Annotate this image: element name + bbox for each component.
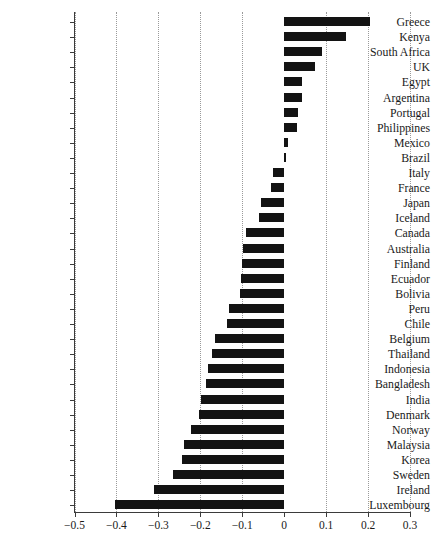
chart-row: France <box>0 180 434 196</box>
chart-row: Portugal <box>0 105 434 121</box>
x-tick-mark <box>326 512 327 517</box>
x-tick-mark <box>368 512 369 517</box>
x-tick-label: −0.5 <box>55 519 95 532</box>
bar-portugal <box>284 108 298 117</box>
bar-peru <box>229 304 284 313</box>
x-tick-label: 0.3 <box>390 519 430 532</box>
chart-row: Norway <box>0 422 434 438</box>
chart-row: Japan <box>0 195 434 211</box>
category-label-india: India <box>346 392 434 408</box>
x-tick-mark <box>284 512 285 517</box>
y-tick-mark <box>70 67 75 68</box>
chart-row: Bangladesh <box>0 376 434 392</box>
bar-korea <box>182 455 284 464</box>
category-label-denmark: Denmark <box>346 407 434 423</box>
y-tick-mark <box>70 233 75 234</box>
y-tick-mark <box>70 384 75 385</box>
y-tick-mark <box>70 309 75 310</box>
category-label-iceland: Iceland <box>346 210 434 226</box>
chart-row: Thailand <box>0 346 434 362</box>
category-label-mexico: Mexico <box>346 135 434 151</box>
y-tick-mark <box>70 445 75 446</box>
y-tick-mark <box>70 490 75 491</box>
bar-uk <box>284 62 315 71</box>
plot-area: GreeceKenyaSouth AfricaUKEgyptArgentinaP… <box>0 0 434 544</box>
category-label-south-africa: South Africa <box>346 44 434 60</box>
category-label-korea: Korea <box>346 452 434 468</box>
category-label-portugal: Portugal <box>346 105 434 121</box>
bar-thailand <box>212 349 284 358</box>
y-tick-mark <box>70 113 75 114</box>
category-label-belgium: Belgium <box>346 331 434 347</box>
y-tick-mark <box>70 369 75 370</box>
chart-row: Greece <box>0 14 434 30</box>
chart-row: Mexico <box>0 135 434 151</box>
chart-row: Brazil <box>0 150 434 166</box>
category-label-norway: Norway <box>346 422 434 438</box>
x-tick-mark <box>242 512 243 517</box>
bar-finland <box>242 259 284 268</box>
category-label-australia: Australia <box>346 241 434 257</box>
chart-row: Peru <box>0 301 434 317</box>
y-tick-mark <box>70 264 75 265</box>
y-tick-mark <box>70 218 75 219</box>
bar-malaysia <box>184 440 285 449</box>
bar-ireland <box>154 485 284 494</box>
y-tick-mark <box>70 339 75 340</box>
bar-argentina <box>284 93 302 102</box>
category-label-bangladesh: Bangladesh <box>346 376 434 392</box>
chart-row: Philippines <box>0 120 434 136</box>
bar-japan <box>261 198 284 207</box>
chart-row: UK <box>0 59 434 75</box>
x-tick-mark <box>410 512 411 517</box>
category-label-chile: Chile <box>346 316 434 332</box>
chart-row: Bolivia <box>0 286 434 302</box>
chart-row: Argentina <box>0 90 434 106</box>
chart-row: Chile <box>0 316 434 332</box>
y-tick-mark <box>70 354 75 355</box>
category-label-peru: Peru <box>346 301 434 317</box>
bar-ecuador <box>241 274 285 283</box>
bar-india <box>201 395 284 404</box>
chart-row: Australia <box>0 241 434 257</box>
bar-bangladesh <box>206 379 284 388</box>
bar-kenya <box>284 32 346 41</box>
bar-bolivia <box>240 289 284 298</box>
bar-philippines <box>284 123 297 132</box>
y-tick-mark <box>70 22 75 23</box>
bar-brazil <box>284 153 286 162</box>
x-tick-mark <box>200 512 201 517</box>
y-tick-mark <box>70 158 75 159</box>
category-label-bolivia: Bolivia <box>346 286 434 302</box>
category-label-italy: Italy <box>346 165 434 181</box>
chart-row: Italy <box>0 165 434 181</box>
bar-denmark <box>199 410 284 419</box>
x-tick-label: −0.2 <box>180 519 220 532</box>
category-label-philippines: Philippines <box>346 120 434 136</box>
bar-italy <box>273 168 284 177</box>
category-label-finland: Finland <box>346 256 434 272</box>
y-tick-mark <box>70 475 75 476</box>
y-tick-mark <box>70 52 75 53</box>
chart-row: Luxembourg <box>0 497 434 513</box>
y-tick-mark <box>70 415 75 416</box>
x-tick-label: 0 <box>264 519 304 532</box>
chart-row: South Africa <box>0 44 434 60</box>
x-tick-label: −0.4 <box>96 519 136 532</box>
chart-row: Belgium <box>0 331 434 347</box>
x-tick-label: −0.1 <box>222 519 262 532</box>
y-tick-mark <box>70 143 75 144</box>
category-label-argentina: Argentina <box>346 90 434 106</box>
chart-row: Sweden <box>0 467 434 483</box>
x-tick-mark <box>75 512 76 517</box>
y-tick-mark <box>70 128 75 129</box>
category-label-luxembourg: Luxembourg <box>346 497 434 513</box>
chart-row: Finland <box>0 256 434 272</box>
bar-mexico <box>284 138 288 147</box>
category-label-kenya: Kenya <box>346 29 434 45</box>
chart-row: Ireland <box>0 482 434 498</box>
chart-row: Denmark <box>0 407 434 423</box>
bar-norway <box>191 425 285 434</box>
y-tick-mark <box>70 173 75 174</box>
category-label-uk: UK <box>346 59 434 75</box>
